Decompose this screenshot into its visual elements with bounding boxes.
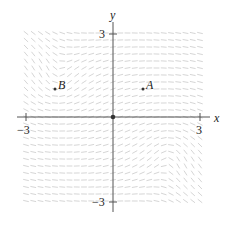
slope-segment [190,130,195,133]
slope-segment [175,33,181,34]
slope-segment [154,130,160,132]
slope-segment [38,38,42,42]
slope-segment [30,144,36,145]
slope-segment [125,61,131,62]
slope-segment [45,145,51,146]
slope-segment [74,66,79,69]
slope-segment [103,158,109,159]
slope-segment [146,109,152,110]
slope-segment [30,130,36,132]
slope-segment [52,173,58,174]
slope-segment [103,74,108,76]
slope-segment [154,137,159,139]
slope-segment [38,159,44,160]
slope-segment [132,151,137,154]
slope-segment [191,157,194,162]
slope-segment [139,137,144,140]
slope-segment [31,38,35,42]
slope-segment [103,47,109,48]
slope-segment [183,39,189,40]
slope-segment [39,52,43,56]
slope-segment [45,173,51,174]
slope-segment [38,130,44,131]
slope-segment [38,31,43,34]
slope-segment [81,137,87,138]
slope-segment [46,45,50,49]
slope-segment [89,67,94,70]
slope-segment [103,180,109,181]
slope-segment [139,179,145,181]
slope-segment [147,172,152,174]
slope-segment [82,67,87,70]
slope-segment [125,109,131,111]
slope-segment [31,31,36,35]
slope-segment [39,66,42,71]
slope-segment [118,151,123,153]
slope-segment [103,151,109,153]
slope-segment [67,201,73,202]
slope-segment [32,59,35,64]
slope-segment [117,88,123,90]
slope-segment [24,87,28,91]
slope-segment [125,81,131,82]
slope-segment [88,144,94,145]
slope-segment [117,47,123,48]
slope-segment [169,164,173,168]
slope-segment [23,151,29,152]
slope-segment [132,137,137,139]
slope-segment [38,123,44,124]
slope-segment [59,201,65,202]
slope-segment [125,165,130,167]
y-tick-label-pos3: 3 [99,28,105,40]
slope-segment [198,143,202,147]
slope-segment [161,193,167,195]
slope-segment [197,39,203,40]
slope-segment [125,172,130,174]
slope-segment [81,159,87,160]
slope-segment [161,137,167,138]
slope-segment [161,33,167,34]
slope-segment [168,61,174,62]
slope-segment [30,179,36,180]
slope-segment [45,194,51,195]
slope-segment [190,60,196,61]
slope-segment [117,81,123,83]
slope-segment [88,173,94,174]
slope-segment [46,73,49,78]
slope-segment [177,157,180,162]
slope-segment [103,53,109,54]
slope-segment [31,52,35,56]
slope-segment [139,187,145,188]
slope-segment [125,179,131,180]
slope-segment [198,192,202,196]
slope-segment [139,82,145,83]
slope-segment [74,109,80,111]
slope-segment [190,136,195,139]
slope-segment [146,123,152,125]
point-b-label: B [58,79,65,91]
slope-segment [190,88,196,89]
slope-segment [23,179,29,180]
slope-segment [183,123,188,125]
slope-segment [197,74,203,75]
slope-segment [161,186,167,188]
slope-segment [45,95,50,97]
slope-segment [125,88,131,89]
slope-segment [24,59,27,63]
slope-segment [146,96,152,97]
slope-segment [197,53,203,54]
slope-segment [96,47,102,48]
slope-segment [38,173,44,174]
slope-segment [154,200,160,201]
slope-segment [96,180,102,181]
slope-segment [176,143,181,146]
slope-segment [96,88,101,90]
slope-segment [154,180,160,181]
slope-segment [125,187,131,188]
slope-segment [67,109,73,110]
slope-segment [117,179,123,180]
slope-segment [198,164,201,169]
slope-segment [88,130,94,131]
slope-segment [132,179,138,181]
slope-segment [67,88,72,91]
